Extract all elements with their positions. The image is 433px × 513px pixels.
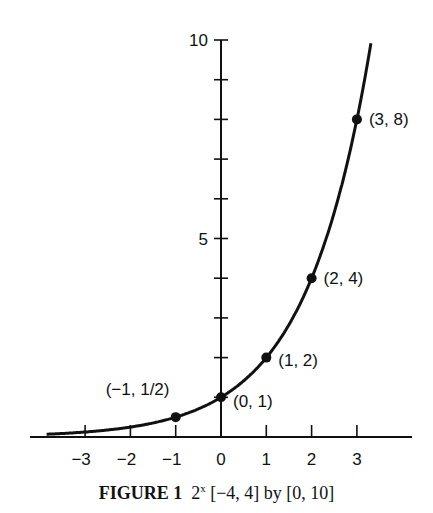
point-label: (2, 4) xyxy=(324,269,364,288)
point-label: (−1, 1/2) xyxy=(106,380,170,399)
ticks: −3−2−10123510 xyxy=(71,31,361,469)
data-point xyxy=(352,114,362,124)
point-label: (1, 2) xyxy=(278,351,318,370)
x-tick-label: −3 xyxy=(71,450,90,469)
x-tick-label: 3 xyxy=(352,450,361,469)
exponential-chart: −3−2−10123510 (−1, 1/2)(0, 1)(1, 2)(2, 4… xyxy=(0,0,433,513)
data-point xyxy=(307,273,317,283)
x-tick-label: −1 xyxy=(162,450,181,469)
x-tick-label: 2 xyxy=(307,450,316,469)
function-base: 2 xyxy=(191,483,200,503)
y-tick-label: 10 xyxy=(189,31,208,50)
window-range: [−4, 4] by [0, 10] xyxy=(210,483,334,503)
point-label: (3, 8) xyxy=(369,110,409,129)
y-tick-label: 5 xyxy=(199,230,208,249)
data-point xyxy=(171,412,181,422)
figure-caption: FIGURE 1 2x [−4, 4] by [0, 10] xyxy=(0,482,433,504)
data-points: (−1, 1/2)(0, 1)(1, 2)(2, 4)(3, 8) xyxy=(106,110,409,422)
exponential-curve xyxy=(47,43,371,434)
x-tick-label: 0 xyxy=(216,450,225,469)
data-point xyxy=(216,392,226,402)
data-point xyxy=(261,353,271,363)
point-label: (0, 1) xyxy=(233,392,273,411)
x-tick-label: 1 xyxy=(262,450,271,469)
function-exponent: x xyxy=(200,482,206,494)
figure-number: FIGURE 1 xyxy=(99,483,183,503)
x-tick-label: −2 xyxy=(117,450,136,469)
